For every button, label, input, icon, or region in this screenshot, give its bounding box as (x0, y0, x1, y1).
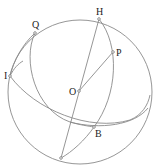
point-q (34, 32, 37, 35)
label-h: H (96, 6, 103, 17)
point-h (98, 18, 101, 21)
point-i (9, 75, 12, 78)
point-p (112, 51, 115, 54)
label-i: I (4, 70, 7, 81)
label-o: O (69, 86, 76, 97)
arc-q-b (30, 33, 94, 127)
arc-i-b (10, 76, 150, 123)
point-bottom (60, 157, 63, 160)
point-o (78, 90, 81, 93)
label-q: Q (32, 19, 40, 30)
diameter-line (61, 19, 99, 158)
sphere-diagram: H Q P I O B (0, 0, 156, 168)
radius-op (79, 52, 113, 91)
label-b: B (95, 128, 102, 139)
label-p: P (116, 47, 122, 58)
